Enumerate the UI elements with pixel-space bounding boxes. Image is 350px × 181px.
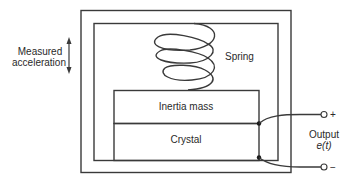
measured-acceleration-label: Measured acceleration bbox=[12, 46, 66, 68]
output-label: Output bbox=[309, 129, 339, 140]
negative-terminal bbox=[321, 164, 327, 170]
negative-lead bbox=[259, 158, 321, 168]
minus-sign: − bbox=[330, 162, 336, 173]
plus-sign: + bbox=[330, 109, 336, 120]
positive-lead bbox=[259, 115, 321, 124]
measured-label-line1: Measured bbox=[18, 46, 62, 57]
crystal-label: Crystal bbox=[170, 134, 201, 145]
accelerometer-diagram: Measured acceleration Spring Inertia mas… bbox=[0, 0, 350, 181]
double-arrow-icon bbox=[67, 37, 72, 74]
output-signal-label: e(t) bbox=[317, 140, 332, 151]
spring-label: Spring bbox=[225, 51, 254, 62]
measured-label-line2: acceleration bbox=[12, 57, 66, 68]
positive-terminal bbox=[321, 112, 327, 118]
inertia-mass-label: Inertia mass bbox=[159, 101, 213, 112]
spring-coil bbox=[155, 24, 215, 91]
